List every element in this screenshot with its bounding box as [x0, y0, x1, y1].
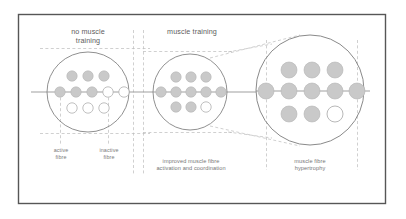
- fibre-active: [186, 72, 196, 82]
- fibre-active: [83, 71, 93, 81]
- label-muscle-fibre-hypertrophy: muscle fibre hypertrophy: [270, 158, 350, 172]
- fibre-inactive: [327, 106, 343, 122]
- fibre-active: [281, 106, 297, 122]
- fibre-active: [186, 102, 196, 112]
- fibre-inactive: [103, 87, 113, 97]
- fibre-active: [99, 71, 109, 81]
- label-muscle-training: muscle training: [150, 28, 234, 37]
- label-no-muscle-training: no muscle training: [53, 28, 123, 46]
- figure-root: no muscle training muscle training activ…: [0, 0, 406, 219]
- fibre-active: [258, 83, 274, 99]
- fibre-active: [171, 72, 181, 82]
- fibre-active: [171, 102, 181, 112]
- fibre-active: [156, 87, 166, 97]
- fibre-active: [304, 62, 320, 78]
- fibre-active: [201, 72, 211, 82]
- fibre-active: [87, 87, 97, 97]
- label-active-fibre: active fibre: [44, 147, 78, 160]
- fibre-active: [186, 87, 196, 97]
- fibre-active: [304, 83, 320, 99]
- label-improved-activation: improved muscle fibre activation and coo…: [144, 158, 238, 172]
- fibre-inactive: [99, 103, 109, 113]
- fibre-active: [55, 87, 65, 97]
- fibre-active: [71, 87, 81, 97]
- fibre-active: [327, 62, 343, 78]
- fibre-active: [216, 87, 226, 97]
- fibre-active: [67, 71, 77, 81]
- fibre-active: [349, 83, 365, 99]
- fibre-active: [201, 87, 211, 97]
- fibre-active: [171, 87, 181, 97]
- fibre-inactive: [119, 87, 129, 97]
- fibre-active: [304, 106, 320, 122]
- label-inactive-fibre: inactive fibre: [91, 147, 127, 160]
- fibre-active: [327, 83, 343, 99]
- fibre-active: [281, 83, 297, 99]
- fibre-inactive: [83, 103, 93, 113]
- fibre-active: [281, 62, 297, 78]
- fibre-inactive: [201, 102, 211, 112]
- fibre-inactive: [67, 103, 77, 113]
